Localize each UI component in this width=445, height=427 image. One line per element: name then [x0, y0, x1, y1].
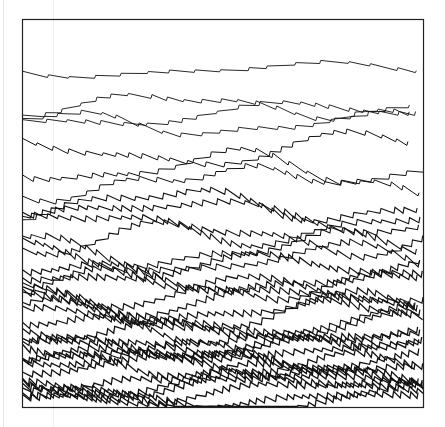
- zigzag-line: [23, 199, 419, 236]
- zigzag-line: [23, 266, 418, 303]
- wave-texture-figure: [0, 0, 445, 427]
- zigzag-line: [23, 129, 408, 167]
- zigzag-lines: [23, 60, 424, 406]
- zigzag-line: [23, 212, 420, 248]
- zigzag-line: [23, 252, 423, 284]
- zigzag-line: [23, 60, 417, 78]
- zigzag-line: [23, 187, 418, 223]
- zigzag-line: [23, 360, 422, 393]
- zigzag-line: [23, 147, 424, 185]
- zigzag-line: [23, 93, 410, 121]
- zigzag-line: [23, 101, 416, 126]
